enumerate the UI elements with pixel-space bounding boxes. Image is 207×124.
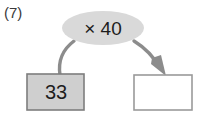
function-machine-diagram: × 40 33 [0, 0, 207, 124]
worksheet-page: (7) × 40 33 [0, 0, 207, 124]
arrowhead-icon [151, 55, 166, 76]
input-connector-curve [60, 41, 74, 75]
output-box[interactable] [134, 75, 192, 110]
input-value: 33 [45, 81, 67, 103]
operation-label: × 40 [84, 18, 122, 39]
